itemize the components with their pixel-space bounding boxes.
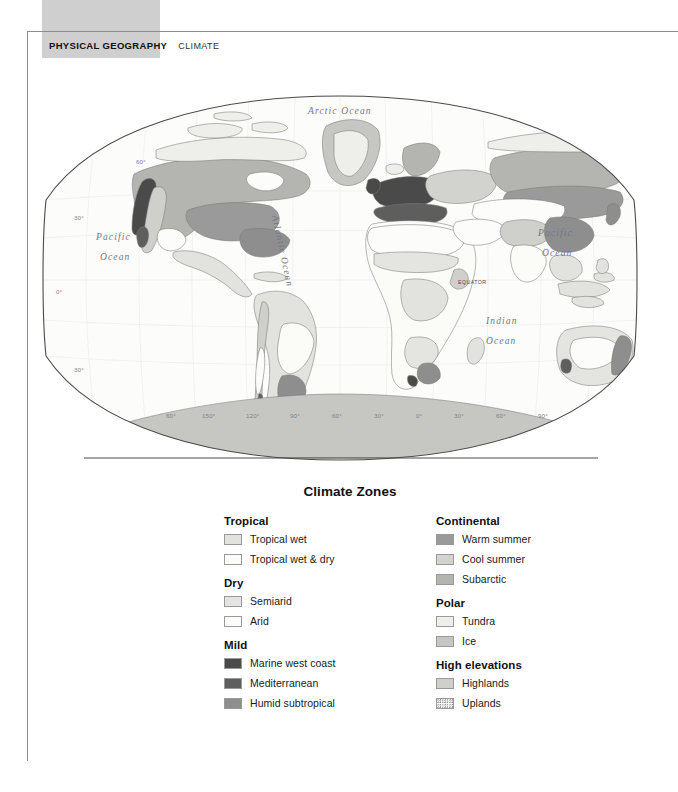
lat-label-30s: 30°: [74, 366, 84, 373]
south-africa-subtropical: [417, 363, 440, 384]
legend-item-subarctic[interactable]: Subarctic: [436, 572, 586, 586]
lat-label-30n: 30°: [74, 214, 84, 221]
legend-item-warm-summer[interactable]: Warm summer: [436, 532, 586, 546]
legend-label-arid: Arid: [250, 615, 269, 627]
label-pacific-ocean-east-2: Ocean: [542, 248, 573, 258]
legend-group-dry: Dry Semiarid Arid: [224, 577, 374, 628]
swatch-humid-subtropical: [224, 698, 242, 709]
legend-item-tundra[interactable]: Tundra: [436, 614, 586, 628]
sahel-semiarid: [374, 252, 458, 273]
lon-label-150e: 150°: [622, 412, 636, 419]
legend-group-high-elevations: High elevations Highlands Uplands: [436, 659, 586, 710]
legend-label-warm-summer: Warm summer: [462, 533, 531, 545]
swatch-marine-west-coast: [224, 658, 242, 669]
legend-heading-mild: Mild: [224, 639, 374, 651]
legend-item-cool-summer[interactable]: Cool summer: [436, 552, 586, 566]
legend-item-uplands[interactable]: Uplands: [436, 696, 586, 710]
label-equator: EQUATOR: [458, 279, 486, 285]
legend-label-mediterranean: Mediterranean: [250, 677, 318, 689]
swatch-semiarid: [224, 596, 242, 607]
legend-group-continental: Continental Warm summer Cool summer Suba…: [436, 515, 586, 586]
australia-mediterranean: [561, 359, 572, 373]
legend-label-semiarid: Semiarid: [250, 595, 292, 607]
page-canvas: PHYSICAL GEOGRAPHY CLIMATE: [0, 0, 678, 792]
legend-item-marine-west-coast[interactable]: Marine west coast: [224, 656, 374, 670]
lon-label-30w: 30°: [374, 412, 384, 419]
lat-label-60n: 60°: [136, 158, 146, 165]
swatch-highlands: [436, 678, 454, 689]
legend-label-humid-subtropical: Humid subtropical: [250, 697, 335, 709]
lon-label-90w: 90°: [290, 412, 300, 419]
legend-label-uplands: Uplands: [462, 697, 501, 709]
legend-heading-high-elevations: High elevations: [436, 659, 586, 671]
legend-group-polar: Polar Tundra Ice: [436, 597, 586, 648]
legend-item-humid-subtropical[interactable]: Humid subtropical: [224, 696, 374, 710]
label-arctic-ocean: Arctic Ocean: [307, 106, 372, 116]
legend-column-right: Continental Warm summer Cool summer Suba…: [436, 515, 586, 710]
legend-label-ice: Ice: [462, 635, 476, 647]
lon-label-a: 60°: [166, 412, 176, 419]
swatch-tropical-wet: [224, 534, 242, 545]
running-head: PHYSICAL GEOGRAPHY CLIMATE: [49, 40, 219, 51]
legend-columns: Tropical Tropical wet Tropical wet & dry…: [0, 515, 678, 710]
swatch-uplands: [436, 698, 454, 709]
lon-label-150w: 150°: [202, 412, 216, 419]
legend-heading-dry: Dry: [224, 577, 374, 589]
running-head-sub: CLIMATE: [178, 41, 219, 51]
lon-label-120e: 120°: [578, 412, 592, 419]
lat-label-0: 0°: [56, 288, 63, 295]
legend-item-semiarid[interactable]: Semiarid: [224, 594, 374, 608]
legend-item-tropical-wet-dry[interactable]: Tropical wet & dry: [224, 552, 374, 566]
legend-heading-polar: Polar: [436, 597, 586, 609]
label-indian-ocean-2: Ocean: [486, 336, 517, 346]
map-legend: Climate Zones Tropical Tropical wet Trop…: [0, 484, 678, 710]
lon-label-120w: 120°: [246, 412, 260, 419]
swatch-ice: [436, 636, 454, 647]
legend-label-tropical-wet: Tropical wet: [250, 533, 307, 545]
legend-column-left: Tropical Tropical wet Tropical wet & dry…: [224, 515, 374, 710]
legend-label-tropical-wet-dry: Tropical wet & dry: [250, 553, 335, 565]
lon-label-60e: 60°: [496, 412, 506, 419]
label-indian-ocean-1: Indian: [485, 316, 518, 326]
header-rule: [27, 31, 678, 32]
legend-item-mediterranean[interactable]: Mediterranean: [224, 676, 374, 690]
legend-label-marine-west-coast: Marine west coast: [250, 657, 336, 669]
label-pacific-ocean-west-1: Pacific: [95, 232, 131, 242]
lon-label-0: 0°: [416, 412, 423, 419]
legend-title: Climate Zones: [0, 484, 678, 499]
swatch-tropical-wet-dry: [224, 554, 242, 565]
lon-label-90e: 90°: [538, 412, 548, 419]
legend-item-arid[interactable]: Arid: [224, 614, 374, 628]
world-climate-map: Arctic Ocean Pacific Ocean Pacific Ocean…: [38, 88, 642, 468]
running-head-main: PHYSICAL GEOGRAPHY: [49, 40, 167, 51]
label-pacific-ocean-west-2: Ocean: [100, 252, 131, 262]
swatch-arid: [224, 616, 242, 627]
legend-label-highlands: Highlands: [462, 677, 509, 689]
legend-item-ice[interactable]: Ice: [436, 634, 586, 648]
map-svg: Arctic Ocean Pacific Ocean Pacific Ocean…: [38, 88, 642, 468]
swatch-cool-summer: [436, 554, 454, 565]
swatch-mediterranean: [224, 678, 242, 689]
legend-label-tundra: Tundra: [462, 615, 495, 627]
legend-heading-continental: Continental: [436, 515, 586, 527]
legend-item-tropical-wet[interactable]: Tropical wet: [224, 532, 374, 546]
legend-label-subarctic: Subarctic: [462, 573, 506, 585]
swatch-warm-summer: [436, 534, 454, 545]
legend-label-cool-summer: Cool summer: [462, 553, 525, 565]
swatch-tundra: [436, 616, 454, 627]
legend-group-tropical: Tropical Tropical wet Tropical wet & dry: [224, 515, 374, 566]
lon-label-60w: 60°: [332, 412, 342, 419]
swatch-subarctic: [436, 574, 454, 585]
legend-item-highlands[interactable]: Highlands: [436, 676, 586, 690]
legend-heading-tropical: Tropical: [224, 515, 374, 527]
legend-group-mild: Mild Marine west coast Mediterranean Hum…: [224, 639, 374, 710]
label-pacific-ocean-east-1: Pacific: [537, 228, 573, 238]
lon-label-30e: 30°: [454, 412, 464, 419]
